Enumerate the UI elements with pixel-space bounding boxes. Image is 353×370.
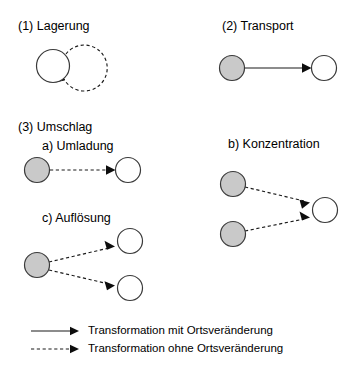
group-aufloesung — [25, 229, 143, 301]
aufloesung-arrowhead-lower — [105, 281, 116, 290]
node-umladung-origin-gray — [25, 158, 50, 183]
legend-label-dashed: Transformation ohne Ortsveränderung — [88, 342, 283, 355]
legend-solid-arrowhead — [70, 327, 79, 335]
process-transformation-diagram: (1) Lagerung (2) Transport (3) Umschlag … — [0, 0, 353, 370]
section-title-umschlag: (3) Umschlag — [18, 120, 92, 134]
aufloesung-dashed-edge-upper — [49, 248, 109, 262]
konzentration-arrowhead-lower — [300, 212, 311, 221]
node-konzentration-origin-2-gray — [221, 222, 246, 247]
group-umladung — [25, 158, 141, 183]
konzentration-dashed-edge-upper — [245, 187, 304, 201]
node-lagerung-white — [37, 50, 70, 83]
transport-arrowhead — [302, 63, 312, 73]
legend-dashed-arrowhead — [70, 345, 79, 353]
group-transport — [220, 56, 337, 81]
section-title-konzentration: b) Konzentration — [228, 137, 320, 151]
node-transport-destination-white — [312, 56, 337, 81]
legend-samples — [31, 327, 79, 353]
section-title-lagerung: (1) Lagerung — [18, 19, 90, 33]
section-title-transport: (2) Transport — [222, 19, 294, 33]
node-konzentration-destination-white — [313, 198, 338, 223]
node-aufloesung-destination-2-white — [118, 276, 143, 301]
node-umladung-destination-white — [116, 158, 141, 183]
node-konzentration-origin-1-gray — [221, 172, 246, 197]
group-konzentration — [221, 172, 338, 247]
aufloesung-dashed-edge-lower — [49, 270, 109, 284]
konzentration-arrowhead-upper — [300, 200, 311, 209]
section-title-umladung: a) Umladung — [42, 139, 114, 153]
legend-label-solid: Transformation mit Ortsveränderung — [88, 324, 273, 337]
konzentration-dashed-edge-lower — [245, 219, 304, 231]
section-title-aufloesung: c) Auflösung — [42, 211, 111, 225]
node-aufloesung-origin-gray — [25, 253, 50, 278]
node-aufloesung-destination-1-white — [118, 229, 143, 254]
self-loop-dashed-edge — [64, 45, 107, 91]
umladung-arrowhead — [106, 165, 116, 175]
group-lagerung — [37, 45, 108, 91]
node-transport-origin-gray — [220, 56, 245, 81]
diagram-graphics-layer — [0, 0, 353, 370]
